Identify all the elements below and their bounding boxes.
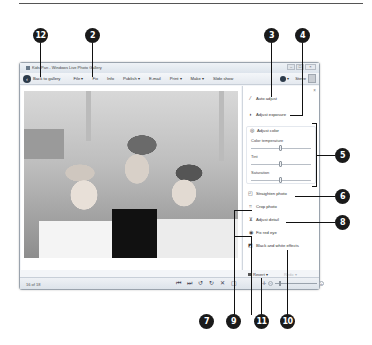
- app-icon: [26, 66, 30, 70]
- callout-4-hline: [290, 115, 303, 116]
- slide-show-button[interactable]: Slide show: [213, 76, 233, 81]
- help-icon[interactable]: [280, 76, 286, 82]
- straighten-photo-button[interactable]: ◰Straighten photo: [248, 191, 287, 196]
- callout-9-line: [251, 236, 252, 315]
- straighten-icon: ◰: [248, 191, 253, 196]
- exposure-icon: ◗: [248, 112, 253, 117]
- detail-icon: ⊻: [248, 217, 253, 222]
- callout-5-bracket-top: [312, 123, 317, 124]
- minimize-button[interactable]: –: [287, 64, 295, 70]
- callout-8: 8: [335, 215, 350, 230]
- rotate-right-icon[interactable]: ↻: [209, 280, 214, 287]
- callout-2: 2: [85, 28, 100, 43]
- tint-thumb[interactable]: [279, 161, 282, 167]
- crop-icon: ⌗: [248, 204, 253, 209]
- adjust-color-button[interactable]: ◎Adjust color: [249, 128, 279, 133]
- callout-8-line: [286, 222, 335, 223]
- callout-10: 10: [280, 314, 295, 329]
- callout-6-line: [295, 196, 335, 197]
- straighten-photo-label: Straighten photo: [256, 191, 287, 196]
- callout-5-bracket-bottom: [312, 186, 317, 187]
- publish-menu[interactable]: Publish ▾: [123, 76, 140, 81]
- callout-2-line: [92, 43, 93, 77]
- callout-6: 6: [335, 189, 350, 204]
- callout-3: 3: [264, 28, 279, 43]
- color-icon: ◎: [249, 128, 254, 133]
- callout-3-line: [271, 43, 272, 97]
- rotate-left-icon[interactable]: ↺: [198, 280, 203, 287]
- fix-red-eye-label: Fix red eye: [256, 230, 277, 235]
- back-to-gallery-button[interactable]: Back to gallery: [33, 76, 60, 81]
- status-bar: 16 of 18 ⏮ ⏭ ↺ ↻ ✕ ▢ ✛ − +: [20, 277, 319, 289]
- page-top-rule: [19, 3, 363, 4]
- email-button[interactable]: E-mail: [149, 76, 161, 81]
- callout-4-line: [302, 43, 303, 116]
- crop-photo-button[interactable]: ⌗Crop photo: [248, 204, 277, 209]
- fix-red-eye-button[interactable]: ◉Fix red eye: [248, 230, 277, 235]
- callout-12: 12: [33, 28, 48, 43]
- photo-viewer: [21, 86, 241, 270]
- adjust-exposure-button[interactable]: ◗Adjust exposure: [248, 112, 286, 117]
- zoom-in-button[interactable]: +: [319, 281, 324, 286]
- adjust-color-label: Adjust color: [257, 128, 279, 133]
- photo-count: 16 of 18: [26, 282, 40, 287]
- photo-three-kids: [24, 91, 238, 258]
- user-avatar[interactable]: [308, 74, 316, 83]
- fix-pane: × ⁄Auto adjust ◗Adjust exposure ◎Adjust …: [242, 86, 319, 270]
- zoom-control: ✛ − +: [262, 281, 324, 286]
- callout-7: 7: [199, 314, 214, 329]
- photo-gallery-window: Kids-Pan - Windows Live Photo Gallery – …: [19, 62, 320, 290]
- magic-wand-icon: ⁄: [248, 96, 253, 101]
- black-white-effects-label: Black and white effects: [256, 243, 299, 248]
- callout-5-line: [316, 155, 335, 156]
- next-icon[interactable]: ⏭: [187, 280, 192, 287]
- zoom-slider[interactable]: [275, 283, 317, 284]
- help-menu-arrow[interactable]: ▾: [287, 76, 289, 81]
- playback-controls: ⏮ ⏭ ↺ ↻ ✕ ▢: [176, 280, 237, 287]
- auto-adjust-button[interactable]: ⁄Auto adjust: [248, 96, 277, 101]
- close-button[interactable]: ×: [305, 64, 316, 70]
- callout-7-line: [234, 210, 235, 315]
- saturation-thumb[interactable]: [279, 177, 282, 183]
- file-menu[interactable]: File ▾: [73, 76, 83, 81]
- fit-window-icon[interactable]: ✛: [262, 281, 266, 286]
- callout-11: 11: [254, 314, 269, 329]
- zoom-slider-thumb[interactable]: [279, 281, 281, 286]
- black-white-effects-button[interactable]: ◩Black and white effects: [248, 243, 299, 248]
- callout-9: 9: [226, 314, 241, 329]
- fix-button[interactable]: Fix: [92, 76, 98, 81]
- callout-11-line: [261, 278, 262, 315]
- color-temperature-label: Color temperature: [251, 138, 283, 143]
- print-menu[interactable]: Print ▾: [170, 76, 182, 81]
- callout-12-line: [40, 43, 41, 77]
- auto-adjust-label: Auto adjust: [256, 96, 277, 101]
- callout-4: 4: [295, 28, 310, 43]
- back-arrow-icon[interactable]: ‹: [23, 75, 31, 83]
- info-button[interactable]: Info: [107, 76, 114, 81]
- adjust-exposure-label: Adjust exposure: [256, 112, 286, 117]
- callout-5: 5: [335, 148, 350, 163]
- title-bar: Kids-Pan - Windows Live Photo Gallery – …: [20, 63, 319, 73]
- tint-label: Tint: [251, 154, 258, 159]
- make-menu[interactable]: Make ▾: [191, 76, 204, 81]
- crop-photo-label: Crop photo: [256, 204, 277, 209]
- delete-icon[interactable]: ✕: [220, 280, 225, 287]
- revert-button[interactable]: Revert ▾: [253, 272, 268, 277]
- redo-button[interactable]: Redo ▾: [284, 272, 297, 277]
- close-pane-icon[interactable]: ×: [313, 88, 316, 93]
- saturation-label: Saturation: [251, 170, 269, 175]
- adjust-color-group: ◎Adjust color Color temperature Tint Sat…: [246, 126, 316, 184]
- adjust-detail-label: Adjust detail: [256, 217, 279, 222]
- callout-7-hline: [234, 210, 252, 211]
- red-eye-icon: ◉: [248, 230, 253, 235]
- toolbar: ‹ Back to gallery File ▾ Fix Info Publis…: [20, 73, 319, 85]
- color-temperature-thumb[interactable]: [279, 145, 282, 151]
- adjust-detail-button[interactable]: ⊻Adjust detail: [248, 217, 279, 222]
- callout-9-hline: [234, 236, 252, 237]
- previous-icon[interactable]: ⏮: [176, 280, 181, 287]
- zoom-out-button[interactable]: −: [268, 281, 273, 286]
- user-name[interactable]: Steve: [295, 76, 306, 81]
- callout-10-line: [287, 250, 288, 315]
